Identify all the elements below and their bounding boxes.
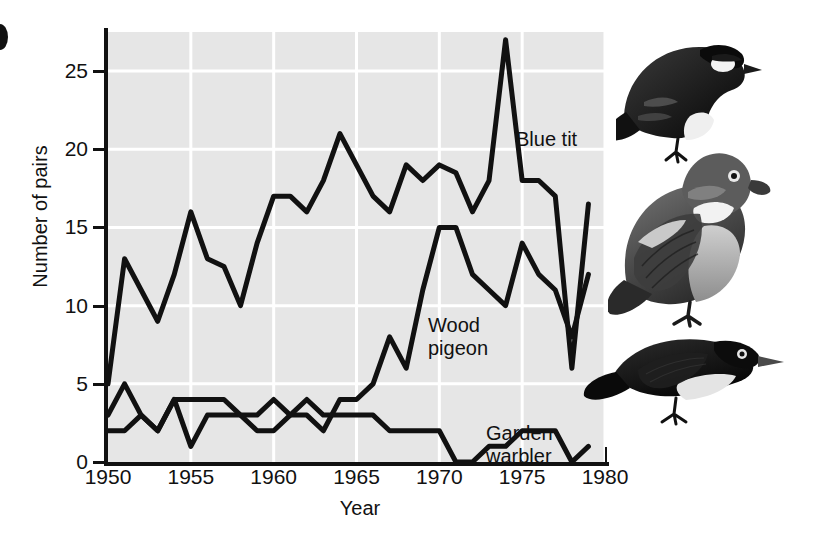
x-axis-tick-label: 1980 bbox=[562, 466, 648, 487]
y-axis-title: Number of pairs bbox=[29, 107, 52, 327]
y-axis-tick-label: 25 bbox=[44, 60, 88, 81]
plot-area: Blue tit Wood pigeon Garden warbler bbox=[108, 32, 605, 462]
y-axis-tick bbox=[93, 305, 106, 308]
bird-illustration-panel bbox=[600, 12, 824, 452]
x-axis-tick-label: 1975 bbox=[479, 466, 565, 487]
x-axis-tick-label: 1955 bbox=[148, 466, 234, 487]
y-axis-tick bbox=[93, 226, 106, 229]
figure-root: 0510152025 1950195519601965197019751980 … bbox=[0, 0, 824, 536]
series-label-wood-pigeon: Wood pigeon bbox=[428, 314, 488, 360]
y-axis-tick bbox=[93, 148, 106, 151]
series-line-blue-tit bbox=[108, 40, 588, 384]
x-axis-tick-label: 1950 bbox=[65, 466, 151, 487]
x-axis-tick-label: 1965 bbox=[314, 466, 400, 487]
chart-svg bbox=[108, 32, 605, 462]
y-axis-tick-label: 5 bbox=[44, 373, 88, 394]
wood-pigeon-illustration bbox=[608, 130, 783, 330]
y-axis-tick bbox=[93, 70, 106, 73]
series-label-blue-tit: Blue tit bbox=[516, 128, 577, 151]
garden-warbler-illustration bbox=[580, 312, 795, 432]
x-axis-tick-label: 1970 bbox=[396, 466, 482, 487]
y-axis-tick bbox=[93, 383, 106, 386]
x-axis-tick-label: 1960 bbox=[231, 466, 317, 487]
y-axis-tick bbox=[93, 461, 106, 464]
figure-marker bbox=[0, 24, 8, 50]
x-axis-title: Year bbox=[210, 497, 510, 520]
